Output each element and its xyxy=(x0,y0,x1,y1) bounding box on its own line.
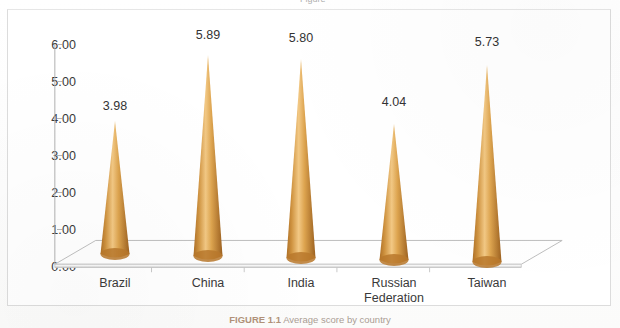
figure-caption: FIGURE 1.1 Average score by country xyxy=(0,314,620,328)
value-label-brazil: 3.98 xyxy=(103,100,127,113)
value-label-taiwan: 5.73 xyxy=(475,36,499,49)
cone-shape-brazil xyxy=(93,121,137,261)
cone-series: 3.98 5. xyxy=(8,10,610,305)
cone-russian-federation[interactable]: 4.04 xyxy=(361,10,427,307)
cone-brazil[interactable]: 3.98 xyxy=(82,10,148,307)
cone-china[interactable]: 5.89 xyxy=(175,10,241,307)
category-label-china: China xyxy=(192,276,225,291)
category-label-line1: Russian xyxy=(364,276,424,291)
cone-taiwan[interactable]: 5.73 xyxy=(454,10,520,307)
category-label-brazil: Brazil xyxy=(99,276,130,291)
value-label-india: 5.80 xyxy=(289,32,313,45)
figure-caption-text: Average score by country xyxy=(283,314,391,325)
category-label-line2: Federation xyxy=(364,291,424,306)
cone-india[interactable]: 5.80 xyxy=(268,10,334,307)
category-label-line1: India xyxy=(287,276,314,291)
cone-shape-china xyxy=(186,55,230,263)
category-label-india: India xyxy=(287,276,314,291)
chart-frame: 6.00 5.00 4.00 3.00 2.00 1.00 xyxy=(7,9,611,306)
cropped-page-header-text: Figure xyxy=(300,0,540,4)
category-label-line1: Brazil xyxy=(99,276,130,291)
category-label-line1: Taiwan xyxy=(468,276,507,291)
cone-shape-taiwan xyxy=(465,65,509,269)
figure-caption-number: FIGURE 1.1 xyxy=(229,314,281,325)
value-label-china: 5.89 xyxy=(196,29,220,42)
category-label-line1: China xyxy=(192,276,225,291)
cone-shape-russian-federation xyxy=(372,124,416,267)
chart-plot-area: 6.00 5.00 4.00 3.00 2.00 1.00 xyxy=(8,10,610,305)
category-label-taiwan: Taiwan xyxy=(468,276,507,291)
category-label-russian-federation: Russian Federation xyxy=(364,276,424,306)
cropped-page-header: Figure xyxy=(300,0,540,5)
value-label-russian-federation: 4.04 xyxy=(382,96,406,109)
cone-shape-india xyxy=(279,59,323,265)
